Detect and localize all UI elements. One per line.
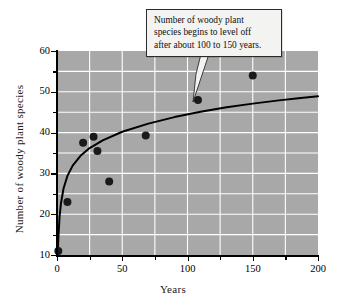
x-tick-label-200: 200 <box>298 264 338 275</box>
x-minor-tick-175 <box>285 256 286 260</box>
y-axis-line <box>56 50 58 256</box>
y-tick-40 <box>51 133 56 134</box>
x-minor-tick-125 <box>220 256 221 260</box>
x-tick-200 <box>318 256 319 261</box>
x-tick-label-150: 150 <box>233 264 273 275</box>
y-minor-tick-15 <box>53 235 57 236</box>
callout-line-1: Number of woody plant <box>154 14 275 26</box>
y-minor-tick-35 <box>53 153 57 154</box>
y-tick-label-50: 50 <box>26 86 50 97</box>
y-tick-20 <box>51 214 56 215</box>
figure-scatter-plot: 102030405060050100150200 Years Number of… <box>0 0 346 303</box>
y-minor-tick-25 <box>53 194 57 195</box>
x-axis-title: Years <box>0 283 346 295</box>
x-tick-label-0: 0 <box>37 264 77 275</box>
callout-line-3: after about 100 to 150 years. <box>154 39 275 51</box>
y-tick-50 <box>51 92 56 93</box>
x-tick-label-50: 50 <box>102 264 142 275</box>
y-tick-label-60: 60 <box>26 46 50 57</box>
y-tick-label-10: 10 <box>26 250 50 261</box>
x-tick-label-100: 100 <box>168 264 208 275</box>
y-minor-tick-55 <box>53 71 57 72</box>
level-off-callout: Number of woody plant species begins to … <box>146 9 282 57</box>
y-tick-label-40: 40 <box>26 127 50 138</box>
y-tick-60 <box>51 51 56 52</box>
callout-line-2: species begins to level off <box>154 26 275 38</box>
y-tick-10 <box>51 255 56 256</box>
y-tick-30 <box>51 173 56 174</box>
x-minor-tick-25 <box>90 256 91 260</box>
x-tick-50 <box>122 256 123 261</box>
callout-leader-line <box>183 54 223 104</box>
y-tick-label-30: 30 <box>26 168 50 179</box>
y-axis-title: Number of woody plant species <box>13 59 25 259</box>
x-tick-100 <box>188 256 189 261</box>
y-tick-label-20: 20 <box>26 209 50 220</box>
x-minor-tick-75 <box>155 256 156 260</box>
x-tick-0 <box>57 256 58 261</box>
x-tick-150 <box>253 256 254 261</box>
y-minor-tick-45 <box>53 112 57 113</box>
